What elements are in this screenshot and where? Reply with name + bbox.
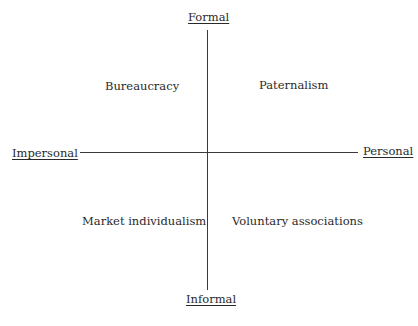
axis-label-personal: Personal — [363, 144, 413, 158]
horizontal-axis — [80, 152, 358, 153]
axis-label-informal: Informal — [186, 292, 236, 306]
axis-label-impersonal: Impersonal — [12, 146, 78, 160]
vertical-axis — [207, 30, 208, 290]
quadrant-label-bureaucracy: Bureaucracy — [105, 79, 179, 93]
quadrant-label-paternalism: Paternalism — [259, 78, 328, 92]
quadrant-label-market-individualism: Market individualism — [82, 214, 206, 228]
axis-label-formal: Formal — [188, 10, 229, 24]
quadrant-label-voluntary-associations: Voluntary associations — [232, 214, 363, 228]
